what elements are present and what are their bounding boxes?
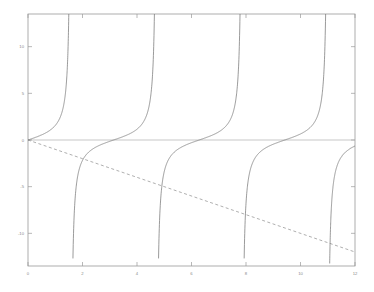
x-tick-label: 12: [345, 271, 365, 276]
y-tick-label: 0: [4, 138, 24, 143]
x-tick-label: 2: [73, 271, 93, 276]
y-tick-label: -5: [4, 184, 24, 189]
plot-canvas: [0, 0, 374, 292]
y-tick-label: 5: [4, 91, 24, 96]
series-path: [73, 14, 154, 258]
tan-curve-series: [28, 14, 355, 263]
chart-figure: 0246810121050-5-10: [0, 0, 374, 292]
x-tick-label: 10: [291, 271, 311, 276]
series-path: [28, 14, 69, 140]
series-path: [159, 14, 240, 258]
y-tick-label: 10: [4, 44, 24, 49]
x-tick-label: 6: [182, 271, 202, 276]
series-path: [330, 146, 355, 264]
x-tick-label: 4: [127, 271, 147, 276]
y-tick-label: -10: [4, 231, 24, 236]
x-tick-label: 8: [236, 271, 256, 276]
dashed-linear-series: [28, 140, 355, 252]
series-path: [244, 14, 325, 258]
x-tick-label: 0: [18, 271, 38, 276]
series-path: [28, 140, 355, 252]
